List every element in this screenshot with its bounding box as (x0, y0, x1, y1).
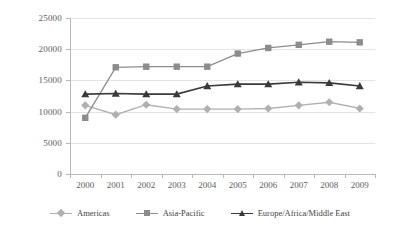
legend-item-europe-africa-middle-east[interactable]: Europe/Africa/Middle East (231, 208, 350, 218)
x-axis-tick-mark (131, 174, 132, 178)
chart-legend: AmericasAsia-PacificEurope/Africa/Middle… (0, 208, 400, 218)
x-axis-tick-mark (253, 174, 254, 178)
x-axis-tick-mark (162, 174, 163, 178)
gridline (70, 112, 375, 113)
gridline (70, 49, 375, 50)
legend-marker (144, 210, 150, 216)
x-axis-tick-mark (375, 174, 376, 178)
gridline (70, 18, 375, 19)
legend-marker (57, 209, 65, 217)
x-axis-tick-mark (192, 174, 193, 178)
x-axis-tick-mark (101, 174, 102, 178)
y-axis-tick-label: 10000 (2, 107, 62, 117)
x-axis-tick-label: 2009 (340, 180, 380, 190)
legend-label: Asia-Pacific (163, 208, 205, 218)
y-axis-tick-label: 15000 (2, 75, 62, 85)
legend-swatch-triangle-icon (231, 208, 253, 218)
y-axis-tick-label: 0 (2, 169, 62, 179)
x-axis-tick-mark (345, 174, 346, 178)
legend-swatch-square-icon (136, 208, 158, 218)
y-axis-tick-label: 20000 (2, 44, 62, 54)
x-axis-tick-mark (70, 174, 71, 178)
legend-item-americas[interactable]: Americas (50, 208, 110, 218)
y-axis-line (70, 18, 71, 174)
gridlines (70, 18, 375, 174)
legend-marker (239, 210, 245, 216)
y-axis-tick-label: 5000 (2, 138, 62, 148)
x-axis-tick-mark (284, 174, 285, 178)
legend-label: Americas (77, 208, 110, 218)
legend-swatch-diamond-icon (50, 208, 72, 218)
y-axis-tick-label: 25000 (2, 13, 62, 23)
legend-label: Europe/Africa/Middle East (258, 208, 350, 218)
x-axis-tick-mark (314, 174, 315, 178)
gridline (70, 143, 375, 144)
gridline (70, 80, 375, 81)
line-chart: 2500020000150001000050000 20002001200220… (0, 0, 400, 233)
legend-item-asia-pacific[interactable]: Asia-Pacific (136, 208, 205, 218)
x-axis-tick-mark (223, 174, 224, 178)
